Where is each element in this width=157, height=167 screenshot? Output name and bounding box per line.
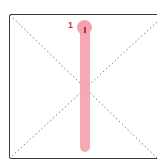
handle-grip-icon	[84, 27, 86, 33]
marker-number-label: 1	[68, 20, 73, 30]
vertical-slider-track[interactable]	[80, 22, 90, 152]
